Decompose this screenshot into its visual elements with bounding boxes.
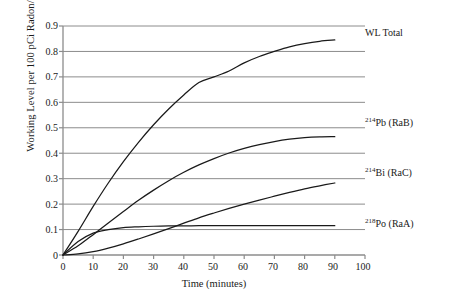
axes (63, 26, 365, 255)
curve-wl-total (63, 40, 335, 255)
curve-pb-214-rab (63, 137, 335, 255)
gridlines (63, 26, 365, 230)
curve-po-218-raa (63, 226, 335, 255)
plot-canvas (0, 0, 450, 299)
data-curves (63, 40, 335, 255)
tick-marks (59, 26, 365, 259)
chart-figure: Working Level per 100 pCi Radon/Liter Ti… (0, 0, 450, 299)
curve-bi-214-rac (63, 183, 335, 255)
